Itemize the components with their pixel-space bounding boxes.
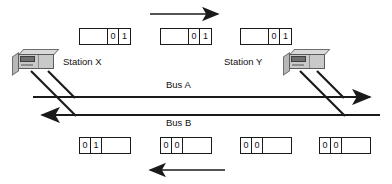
station-x-label: Station X	[63, 57, 102, 67]
frame-bit-cell: 0	[269, 29, 280, 44]
dual-bus-network-diagram: Bus A Bus B Station X Station Y 0 1 0 1 …	[0, 0, 392, 184]
frame-payload-cell	[80, 29, 108, 44]
frame-payload-cell	[342, 138, 370, 153]
frame-bit-cell: 0	[172, 138, 183, 153]
bottom-frame-1: 0 1	[79, 137, 131, 154]
frame-bit-cell: 0	[320, 138, 331, 153]
frame-payload-cell	[102, 138, 130, 153]
bus-a-label: Bus A	[166, 80, 191, 90]
station-y-device-icon	[283, 49, 325, 71]
bottom-frame-4: 0 0	[319, 137, 371, 154]
frame-bit-cell: 1	[280, 29, 291, 44]
bottom-frame-3: 0 0	[240, 137, 292, 154]
frame-payload-cell	[241, 29, 269, 44]
top-frame-1: 0 1	[79, 28, 131, 45]
frame-bit-cell: 0	[189, 29, 200, 44]
frame-payload-cell	[161, 29, 189, 44]
station-x-device-icon	[12, 49, 54, 71]
station-x-tap-lines	[31, 71, 76, 116]
top-frame-2: 0 1	[160, 28, 212, 45]
frame-payload-cell	[183, 138, 211, 153]
frame-bit-cell: 0	[80, 138, 91, 153]
frame-bit-cell: 0	[252, 138, 263, 153]
frame-payload-cell	[263, 138, 291, 153]
station-y-tap-lines	[300, 71, 345, 116]
bottom-frame-2: 0 0	[160, 137, 212, 154]
frame-bit-cell: 0	[331, 138, 342, 153]
bus-b-label: Bus B	[166, 118, 191, 128]
top-frame-3: 0 1	[240, 28, 292, 45]
frame-bit-cell: 0	[241, 138, 252, 153]
station-y-label: Station Y	[224, 57, 262, 67]
frame-bit-cell: 1	[200, 29, 211, 44]
frame-bit-cell: 1	[119, 29, 130, 44]
frame-bit-cell: 0	[161, 138, 172, 153]
frame-bit-cell: 1	[91, 138, 102, 153]
frame-bit-cell: 0	[108, 29, 119, 44]
